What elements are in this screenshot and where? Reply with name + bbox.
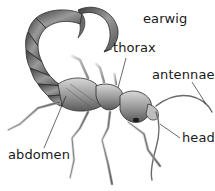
label-antennae: antennae: [152, 68, 215, 81]
label-abdomen: abdomen: [8, 148, 70, 161]
earwig-illustration: [0, 0, 215, 191]
earwig-diagram: earwig thorax antennae head abdomen: [0, 0, 215, 191]
label-head: head: [182, 131, 215, 144]
eye: [133, 118, 139, 122]
head-shape: [120, 91, 152, 122]
head-line: [160, 124, 180, 138]
diagram-title: earwig: [143, 12, 187, 25]
thorax-line: [118, 58, 126, 88]
antennae-line: [192, 82, 206, 104]
label-thorax: thorax: [113, 41, 156, 54]
